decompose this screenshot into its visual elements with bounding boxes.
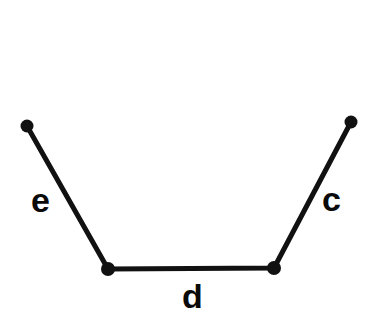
vertex-right-endpoint (345, 116, 358, 129)
vertex-bottom-left (101, 262, 115, 276)
vertex-bottom-right (267, 261, 281, 275)
segment-label-e: e (31, 183, 50, 217)
segment-label-c: c (322, 182, 341, 216)
vertex-left-endpoint (21, 120, 34, 133)
figure-canvas: e d c (0, 0, 382, 316)
segment-label-d: d (182, 279, 203, 313)
figure-svg (0, 0, 382, 316)
